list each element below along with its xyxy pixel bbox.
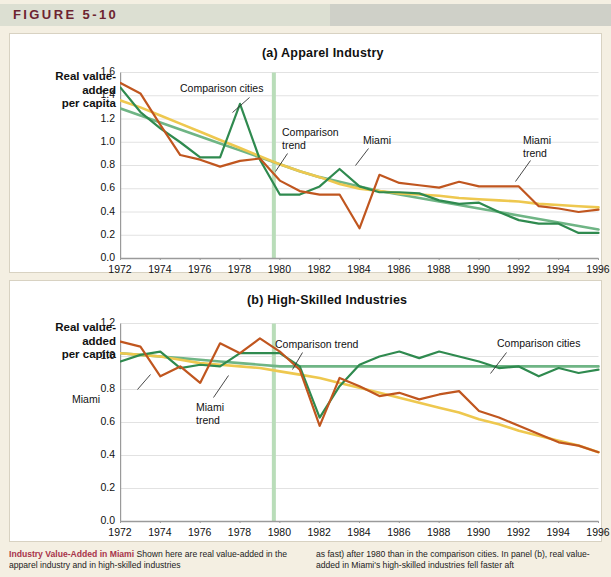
x-axis-tick-label: 1992 — [501, 526, 535, 538]
x-axis-tick-label: 1978 — [223, 526, 257, 538]
x-axis-tick-label: 1988 — [422, 263, 456, 275]
chart-svg — [120, 323, 600, 523]
chart-panel-apparel: (a) Apparel Industry Real value- added p… — [9, 33, 602, 273]
series-line-miami — [121, 338, 599, 452]
chart-panel-high-skilled: (b) High-Skilled Industries Real value- … — [9, 280, 602, 542]
y-axis-tick-label: 0.0 — [89, 514, 115, 526]
annotation-miami-trend-label: Miami trend — [196, 401, 224, 426]
annotation-miami-label: Miami — [363, 134, 391, 147]
x-axis-tick-label: 1992 — [501, 263, 535, 275]
series-line-comparison-trend — [121, 109, 599, 230]
annotation-miami-label: Miami — [72, 393, 100, 406]
y-axis-tick-label: 1.0 — [89, 135, 115, 147]
annotation-leader-line — [356, 149, 369, 166]
y-axis-tick-label: 1.2 — [89, 316, 115, 328]
x-axis-tick-label: 1980 — [262, 526, 296, 538]
annotation-comparison-trend-label: Comparison trend — [282, 126, 339, 151]
x-axis-tick-label: 1974 — [143, 263, 177, 275]
annotation-leader-line — [516, 161, 531, 182]
figure-header: FIGURE 5-10 — [0, 0, 611, 27]
annotation-comparison-trend-label: Comparison trend — [275, 338, 358, 351]
x-axis-tick-label: 1972 — [103, 526, 137, 538]
x-axis-tick-label: 1994 — [541, 526, 575, 538]
y-axis-tick-label: 0.2 — [89, 481, 115, 493]
x-axis-tick-label: 1986 — [382, 526, 416, 538]
x-axis-tick-label: 1984 — [342, 263, 376, 275]
annotation-miami-trend-label: Miami trend — [523, 134, 551, 159]
figure-caption: Industry Value-Added in Miami Shown here… — [9, 549, 602, 577]
y-axis-tick-label: 0.6 — [89, 181, 115, 193]
y-axis-tick-label: 0.4 — [89, 448, 115, 460]
panel-b-title: (b) High-Skilled Industries — [247, 293, 407, 307]
annotation-leader-line — [233, 98, 250, 113]
annotation-leader-line — [138, 375, 151, 390]
panel-b-plot-area — [120, 323, 600, 523]
caption-left-column: Industry Value-Added in Miami Shown here… — [9, 549, 295, 572]
x-axis-tick-label: 1980 — [262, 263, 296, 275]
x-axis-tick-label: 1994 — [541, 263, 575, 275]
y-axis-tick-label: 0.8 — [89, 158, 115, 170]
x-axis-tick-label: 1990 — [462, 263, 496, 275]
panel-a-title: (a) Apparel Industry — [262, 46, 384, 60]
y-axis-tick-label: 0.0 — [89, 251, 115, 263]
x-axis-tick-label: 1976 — [183, 526, 217, 538]
annotation-comparison-cities-label: Comparison cities — [497, 337, 580, 350]
y-axis-tick-label: 1.6 — [89, 65, 115, 77]
annotation-leader-line — [491, 353, 507, 374]
y-axis-tick-label: 1.2 — [89, 112, 115, 124]
y-axis-tick-label: 0.6 — [89, 415, 115, 427]
x-axis-tick-label: 1984 — [342, 526, 376, 538]
y-axis-tick-label: 0.4 — [89, 205, 115, 217]
figure-header-bar-right — [330, 4, 611, 26]
caption-right-column: as fast) after 1980 than in the comparis… — [316, 549, 602, 572]
y-axis-tick-label: 1.0 — [89, 349, 115, 361]
y-axis-tick-label: 1.4 — [89, 88, 115, 100]
x-axis-tick-label: 1988 — [422, 526, 456, 538]
panel-a-plot-area — [120, 72, 600, 260]
x-axis-tick-label: 1986 — [382, 263, 416, 275]
figure-number-label: FIGURE 5-10 — [13, 7, 118, 22]
year-1980-marker-line — [272, 73, 276, 259]
x-axis-tick-label: 1972 — [103, 263, 137, 275]
x-axis-tick-label: 1978 — [223, 263, 257, 275]
x-axis-tick-label: 1974 — [143, 526, 177, 538]
x-axis-tick-label: 1996 — [581, 263, 611, 275]
chart-svg — [120, 72, 600, 260]
annotation-comparison-cities-label: Comparison cities — [180, 82, 263, 95]
y-axis-tick-label: 0.2 — [89, 228, 115, 240]
x-axis-tick-label: 1996 — [581, 526, 611, 538]
series-line-miami-trend — [121, 353, 599, 452]
x-axis-tick-label: 1990 — [462, 526, 496, 538]
x-axis-tick-label: 1982 — [302, 526, 336, 538]
x-axis-tick-label: 1982 — [302, 263, 336, 275]
caption-heading: Industry Value-Added in Miami — [9, 549, 134, 559]
x-axis-tick-label: 1976 — [183, 263, 217, 275]
annotation-leader-line — [214, 376, 229, 398]
